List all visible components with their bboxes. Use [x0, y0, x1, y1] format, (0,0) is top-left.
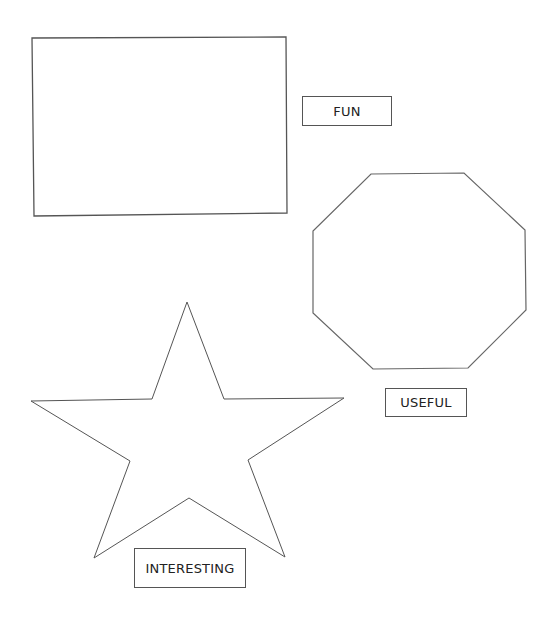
octagon-shape	[313, 173, 526, 369]
rectangle-shape	[32, 37, 287, 216]
shapes-canvas	[0, 0, 554, 620]
star-shape	[31, 302, 344, 558]
label-useful: USEFUL	[385, 388, 467, 417]
label-fun: FUN	[302, 96, 392, 126]
label-interesting: INTERESTING	[134, 548, 246, 588]
